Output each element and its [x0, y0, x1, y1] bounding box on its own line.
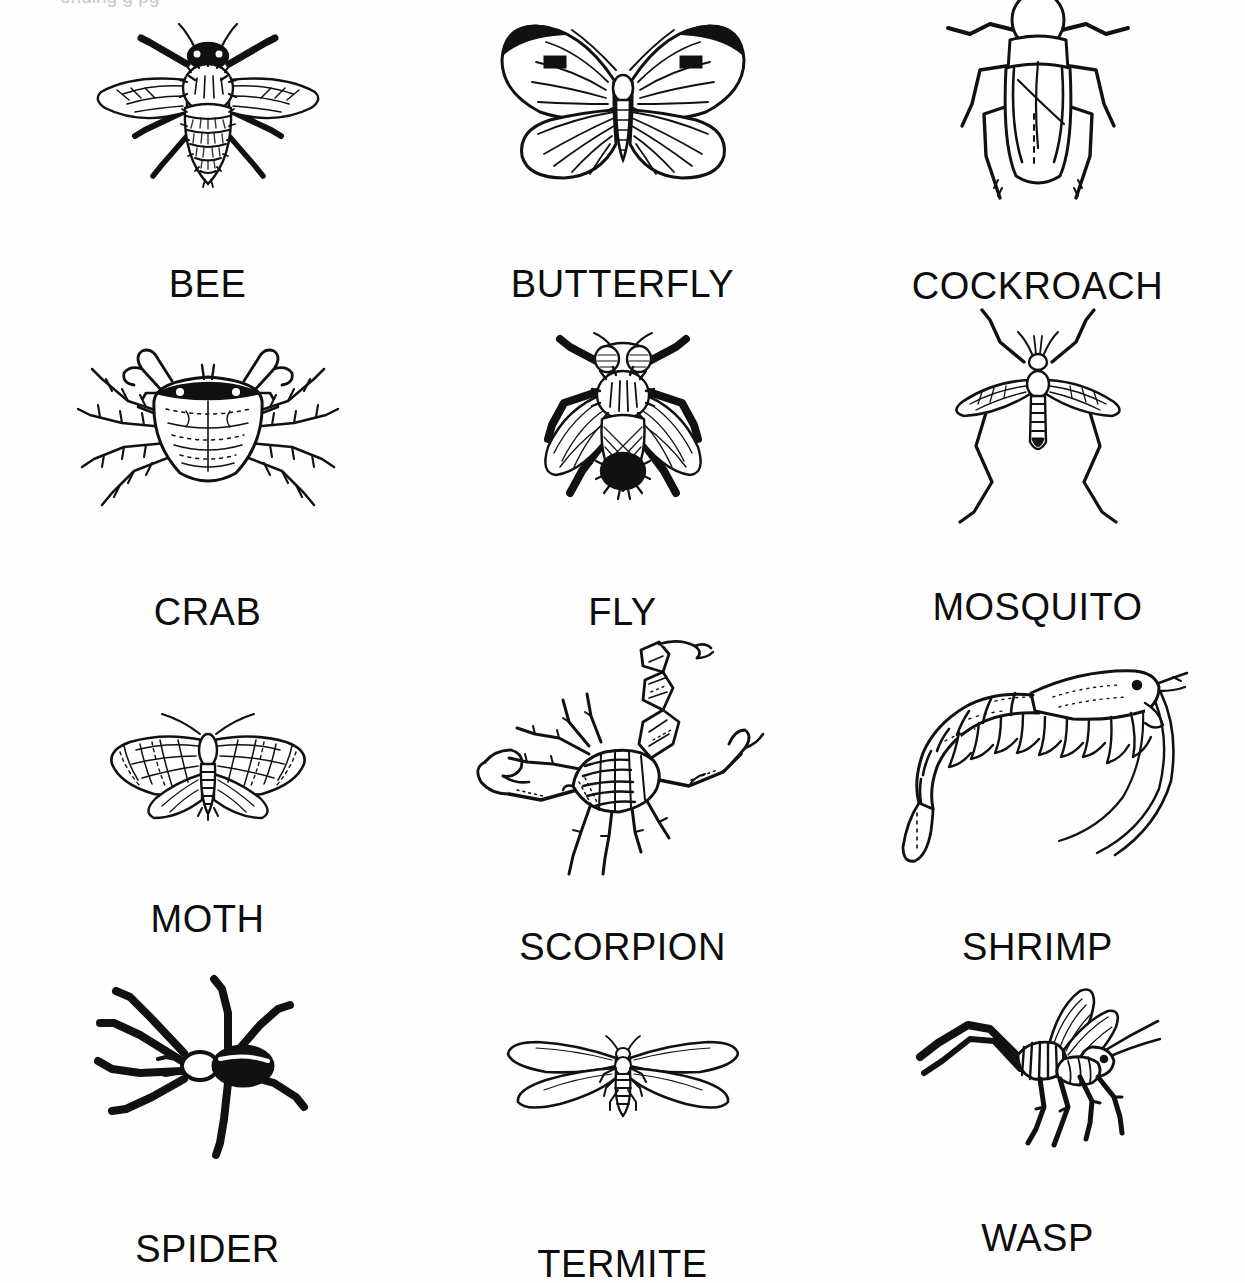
- grid-cell-fly[interactable]: FLY: [415, 318, 830, 636]
- grid-cell-butterfly[interactable]: BUTTERFLY: [415, 0, 830, 318]
- item-label: SHRIMP: [962, 928, 1113, 966]
- grid-cell-crab[interactable]: CRAB: [0, 318, 415, 636]
- grid-cell-cockroach[interactable]: COCKROACH: [830, 0, 1245, 318]
- crab-illustration: [0, 318, 415, 543]
- item-label: FLY: [588, 593, 656, 631]
- item-label: BUTTERFLY: [511, 265, 734, 303]
- bee-illustration: [0, 0, 415, 215]
- termite-illustration: [415, 982, 830, 1179]
- insect-grid: BEE: [0, 0, 1245, 1283]
- mosquito-illustration: [830, 306, 1245, 556]
- grid-cell-scorpion[interactable]: SCORPION: [415, 636, 830, 966]
- grid-cell-moth[interactable]: MOTH: [0, 636, 415, 966]
- moth-illustration: [0, 682, 415, 882]
- butterfly-illustration: [415, 0, 830, 215]
- cockroach-illustration: [830, 0, 1245, 231]
- spider-illustration: [0, 960, 415, 1175]
- grid-cell-bee[interactable]: BEE: [0, 0, 415, 318]
- grid-cell-shrimp[interactable]: SHRIMP: [830, 636, 1245, 966]
- item-label: COCKROACH: [912, 267, 1164, 305]
- item-label: SPIDER: [135, 1230, 279, 1268]
- item-label: SCORPION: [519, 928, 726, 966]
- item-label: MOSQUITO: [932, 588, 1142, 626]
- wasp-illustration: [830, 966, 1245, 1181]
- item-label: BEE: [169, 265, 247, 303]
- item-label: TERMITE: [537, 1245, 707, 1283]
- item-label: CRAB: [154, 593, 262, 631]
- grid-cell-mosquito[interactable]: MOSQUITO: [830, 318, 1245, 636]
- grid-cell-wasp[interactable]: WASP: [830, 966, 1245, 1283]
- scorpion-illustration: [415, 636, 830, 886]
- fly-illustration: [415, 318, 830, 543]
- item-label: WASP: [981, 1219, 1094, 1257]
- grid-cell-spider[interactable]: SPIDER: [0, 966, 415, 1283]
- grid-cell-termite[interactable]: TERMITE: [415, 966, 830, 1283]
- shrimp-illustration: [830, 636, 1245, 886]
- item-label: MOTH: [151, 900, 265, 938]
